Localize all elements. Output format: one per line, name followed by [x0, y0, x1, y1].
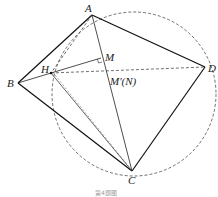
- segment-HM: [51, 58, 101, 73]
- label-B: B: [7, 77, 14, 89]
- right-angle-marker: [98, 59, 103, 63]
- label-M-prime-N: M′(N): [109, 75, 137, 88]
- segment-AH-dashed: [51, 15, 92, 73]
- segment-BC: [18, 83, 132, 171]
- segment-AB: [18, 15, 92, 83]
- segment-HD-dashed: [51, 67, 205, 73]
- label-D: D: [207, 62, 216, 74]
- figure-caption: 第4题图: [95, 189, 117, 197]
- label-M: M: [104, 51, 115, 63]
- segment-AC: [92, 15, 132, 171]
- label-A: A: [84, 2, 92, 14]
- segment-HC: [51, 73, 132, 171]
- geometry-figure: A B C D H M M′(N) 第4题图: [0, 0, 218, 197]
- point-H: [50, 72, 52, 74]
- label-C: C: [128, 174, 136, 186]
- label-H: H: [40, 63, 50, 75]
- segment-HC-dashed: [55, 75, 130, 168]
- segment-CD: [132, 67, 205, 171]
